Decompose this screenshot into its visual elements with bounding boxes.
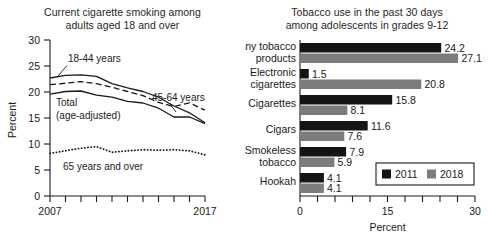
right-x-ticks <box>300 196 475 202</box>
annotation-45-64: 45-64 years <box>152 92 205 103</box>
left-x-tick-2007: 2007 <box>38 205 62 217</box>
left-y-tick-20: 20 <box>28 86 40 98</box>
value-2018-cigars: 7.6 <box>348 130 363 142</box>
category-label-smokeless-tobacco-line-1: Smokeless <box>245 144 296 156</box>
legend-label-2011: 2011 <box>395 168 418 180</box>
right-x-tick-30: 30 <box>469 205 481 217</box>
left-y-tick-30: 30 <box>28 34 40 46</box>
right-bar-chart: 0 15 30 Percent 24.2 27.1 Any tobacco pr… <box>245 0 489 236</box>
bar-2018-any-tobacco-products <box>300 54 458 64</box>
value-2018-cigarettes: 8.1 <box>351 104 366 116</box>
right-chart-legend: 2011 2018 <box>376 163 474 185</box>
annotation-total-line-1: Total <box>56 97 77 108</box>
category-label-electronic-cigarettes-line-2: cigarettes <box>250 78 296 90</box>
category-label-any-tobacco-products-line-2: products <box>256 52 296 64</box>
value-2018-hookah: 4.1 <box>327 182 342 194</box>
right-x-axis-title: Percent <box>369 221 405 233</box>
left-y-ticks <box>44 40 50 196</box>
bar-2018-electronic-cigarettes <box>300 80 421 90</box>
legend-swatch-2018 <box>427 170 436 179</box>
value-2018-electronic-cigarettes: 20.8 <box>425 78 446 90</box>
bar-2018-smokeless-tobacco <box>300 158 334 168</box>
bar-2018-cigarettes <box>300 106 347 116</box>
right-x-tick-0: 0 <box>297 205 303 217</box>
value-2018-smokeless-tobacco: 5.9 <box>338 156 353 168</box>
annotation-65-over: 65 years and over <box>63 161 144 172</box>
series-line-65-over <box>50 147 205 155</box>
bar-2018-hookah <box>300 184 324 194</box>
left-line-chart: 0 5 10 15 20 25 30 Percent <box>0 0 245 236</box>
left-x-ticks <box>50 196 205 202</box>
leader-18-44 <box>58 66 67 77</box>
category-label-electronic-cigarettes-line-1: Electronic <box>250 66 296 78</box>
bar-2011-cigarettes <box>300 95 392 105</box>
legend-swatch-2011 <box>382 170 391 179</box>
annotation-total-line-2: (age-adjusted) <box>56 110 120 121</box>
bar-2011-any-tobacco-products <box>300 43 441 53</box>
annotation-18-44: 18-44 years <box>68 53 121 64</box>
value-2011-cigars: 11.6 <box>371 120 391 132</box>
category-label-cigars: Cigars <box>266 123 296 135</box>
bar-2018-cigars <box>300 132 344 142</box>
category-label-cigarettes: Cigarettes <box>248 97 296 109</box>
legend-label-2018: 2018 <box>440 168 464 180</box>
right-chart-panel: Tobacco use in the past 30 days among ad… <box>245 0 489 236</box>
left-x-tick-2017: 2017 <box>193 205 217 217</box>
left-y-tick-25: 25 <box>28 60 40 72</box>
left-y-tick-5: 5 <box>34 164 40 176</box>
bar-2011-hookah <box>300 173 324 183</box>
right-x-tick-15: 15 <box>382 205 394 217</box>
figure-container: Current cigarette smoking among adults a… <box>0 0 489 236</box>
category-label-smokeless-tobacco-line-2: tobacco <box>259 156 296 168</box>
left-y-tick-10: 10 <box>28 138 40 150</box>
category-label-any-tobacco-products-line-1: Any tobacco <box>245 40 296 52</box>
bar-2011-electronic-cigarettes <box>300 69 309 79</box>
left-y-tick-15: 15 <box>28 112 40 124</box>
left-y-axis-title: Percent <box>6 102 18 138</box>
category-label-hookah: Hookah <box>260 175 296 187</box>
value-2011-cigarettes: 15.8 <box>396 94 417 106</box>
value-2018-any-tobacco-products: 27.1 <box>461 52 482 64</box>
value-2011-electronic-cigarettes: 1.5 <box>312 68 327 80</box>
left-chart-panel: Current cigarette smoking among adults a… <box>0 0 245 236</box>
left-y-tick-0: 0 <box>34 190 40 202</box>
